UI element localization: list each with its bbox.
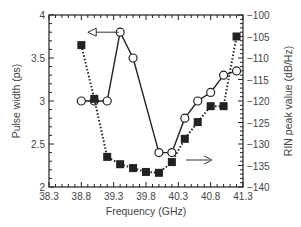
data-series (77, 28, 240, 177)
square-marker (90, 95, 98, 103)
y-tick-label: 2 (39, 182, 45, 193)
circle-marker (77, 97, 85, 105)
y2-tick-label: −140 (247, 182, 270, 193)
circle-marker (155, 149, 163, 157)
square-marker (103, 153, 111, 161)
y2-tick-label: −130 (247, 139, 270, 150)
circle-marker (103, 97, 111, 105)
y2-tick-label: −120 (247, 96, 270, 107)
arrow-left-icon (88, 28, 96, 36)
x-tick-label: 39.8 (136, 191, 156, 202)
y-tick-label: 3 (39, 96, 45, 107)
square-marker (168, 158, 176, 166)
y2-tick-label: −125 (247, 118, 270, 129)
square-marker (233, 33, 241, 41)
square-marker (77, 41, 85, 49)
y2-tick-label: −100 (247, 10, 270, 21)
square-marker (207, 102, 215, 110)
circle-marker (220, 71, 228, 79)
x-tick-label: 40.8 (201, 191, 221, 202)
square-marker (181, 135, 189, 143)
square-marker (129, 164, 137, 172)
square-marker (116, 160, 124, 168)
chart: 38.338.839.339.840.340.841.322.533.54−14… (0, 0, 301, 227)
circle-marker (181, 114, 189, 122)
circle-marker (194, 97, 202, 105)
x-axis-label: Frequency (GHz) (106, 205, 187, 217)
square-marker (142, 168, 150, 176)
square-marker (194, 118, 202, 126)
series-pulse-width (77, 28, 240, 156)
circle-marker (233, 67, 241, 75)
y-tick-label: 2.5 (31, 139, 45, 150)
y2-tick-label: −115 (247, 75, 269, 86)
circle-marker (207, 88, 215, 96)
circle-marker (129, 54, 137, 62)
square-marker (155, 169, 163, 177)
y-tick-label: 3.5 (31, 53, 45, 64)
axis-arrows (88, 28, 212, 164)
y2-tick-label: −110 (247, 53, 269, 64)
y-tick-label: 4 (39, 10, 45, 21)
y2-tick-label: −105 (247, 32, 270, 43)
x-tick-label: 39.3 (104, 191, 124, 202)
square-marker (220, 102, 228, 110)
y-axis-label: Pulse width (ps) (10, 64, 22, 139)
x-tick-label: 38.8 (72, 191, 92, 202)
y2-axis-label: RIN peak value (dB/Hz) (282, 46, 294, 156)
y2-tick-label: −135 (247, 161, 270, 172)
x-tick-label: 40.3 (169, 191, 189, 202)
